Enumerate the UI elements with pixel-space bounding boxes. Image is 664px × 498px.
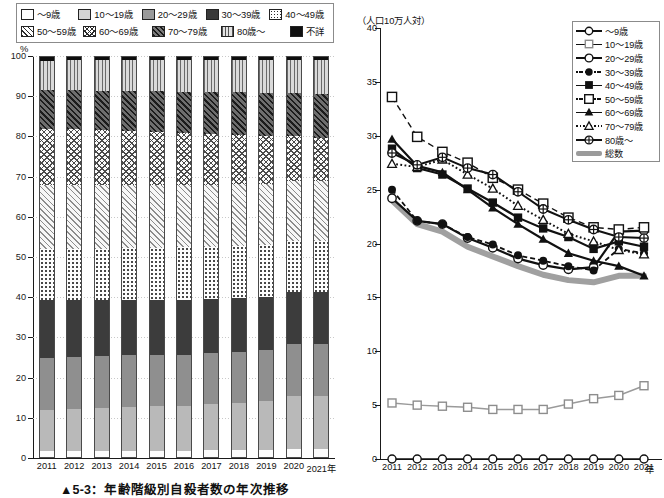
legend-label-50-59: 50～59歳 [37,26,76,37]
line-data-point [589,263,597,271]
bar-segment [150,91,164,132]
bar-y-tick [28,458,33,459]
bar-segment [287,241,301,292]
bar-segment [232,246,246,298]
line-legend-marker-a2029-icon [576,52,602,64]
bar-segment [95,185,109,249]
bar-y-tick-label: 0 [0,453,26,463]
bar-segment [95,451,109,457]
line-legend-marker-a1019-icon [576,38,602,50]
bar-segment [177,247,191,300]
legend-item-20-29: 20～29歳 [142,9,201,20]
bar-segment [67,90,81,129]
bar-plot-area [33,56,335,458]
bar-segment [177,60,191,92]
bar-segment [232,92,246,135]
legend-swatch-unknown-icon [290,26,303,37]
line-data-point [488,203,497,211]
stacked-bar [149,56,165,458]
bar-segment [122,91,136,131]
line-data-point [564,262,572,270]
line-legend-marker-a7079-icon [576,120,602,132]
line-data-point [639,223,648,232]
legend-item-under9: ～9歳 [21,9,73,20]
legend-item-40-49: 40～49歳 [269,9,324,20]
line-legend-item-a2029: 20～29歳 [576,51,656,65]
bar-segment [67,185,81,249]
line-data-point [615,245,623,253]
line-data-point [640,243,648,251]
bar-segment [204,353,218,404]
bar-segment [204,450,218,457]
bar-segment [122,131,136,185]
bar-segment [259,350,273,401]
line-data-point [438,168,447,176]
line-legend-item-a7079: 70～79歳 [576,119,656,133]
line-data-point [615,391,623,399]
line-chart-legend: ～9歳10～19歳20～29歳30～39歳40～49歳50～59歳60～69歳7… [572,21,660,162]
bar-segment [67,300,81,357]
bar-segment [150,185,164,248]
line-legend-marker-a3039-icon [576,66,602,78]
bar-segment [177,406,191,451]
stacked-bar [231,56,247,458]
line-data-point [413,217,421,225]
line-data-point [413,217,421,225]
line-data-point [463,170,472,178]
line-data-point [539,257,547,265]
line-data-point [388,399,396,407]
bar-y-tick-label: 60 [0,212,26,222]
bar-segment [150,451,164,457]
line-data-point [513,185,522,194]
legend-label-80plus: 80歳～ [237,26,265,37]
line-legend-label-a9: ～9歳 [605,24,628,38]
line-data-point [564,216,572,224]
line-y-tick-label: 5 [355,400,377,410]
bar-x-tick-label: 2021年 [304,461,338,475]
bar-segment [314,138,328,182]
line-data-point [640,226,648,234]
bar-x-axis-line [33,458,335,459]
line-data-point [489,241,497,249]
bar-segment [40,249,54,300]
bar-y-tick-label: 70 [0,172,26,182]
line-data-point [589,245,597,253]
bar-segment [95,356,109,408]
bar-segment [122,300,136,355]
line-data-point [438,155,447,163]
legend-row-1: ～9歳 10～19歳 20～29歳 30～39歳 40～49歳 [21,6,329,23]
line-data-point [640,382,648,390]
line-series [392,153,644,238]
bar-segment [314,396,328,449]
line-legend-label-a7079: 70～79歳 [605,119,643,133]
bar-segment [177,133,191,185]
bar-segment [204,185,218,247]
line-data-point [615,237,623,245]
line-data-point [590,395,598,403]
bar-segment [204,404,218,450]
line-y-tick-label: 25 [355,185,377,195]
line-data-point [589,256,598,264]
line-legend-item-a1019: 10～19歳 [576,38,656,52]
bar-segment [314,449,328,457]
bar-segment [40,90,54,129]
line-data-point [539,205,547,213]
line-data-point [539,199,548,208]
line-data-point [513,220,522,228]
bar-segment [40,410,54,451]
bar-segment [314,181,328,240]
line-series [392,159,644,254]
line-y-axis-line [380,28,381,459]
bar-segment [122,248,136,300]
line-series [392,198,644,269]
bar-segment [314,60,328,94]
line-data-point [614,262,623,270]
bar-segment [287,181,301,241]
line-legend-label-a80: 80歳～ [605,133,633,147]
line-data-point [463,185,472,193]
bar-segment [40,300,54,358]
line-data-point [413,161,422,169]
stacked-bar [94,56,110,458]
line-legend-item-a80: 80歳～ [576,133,656,147]
